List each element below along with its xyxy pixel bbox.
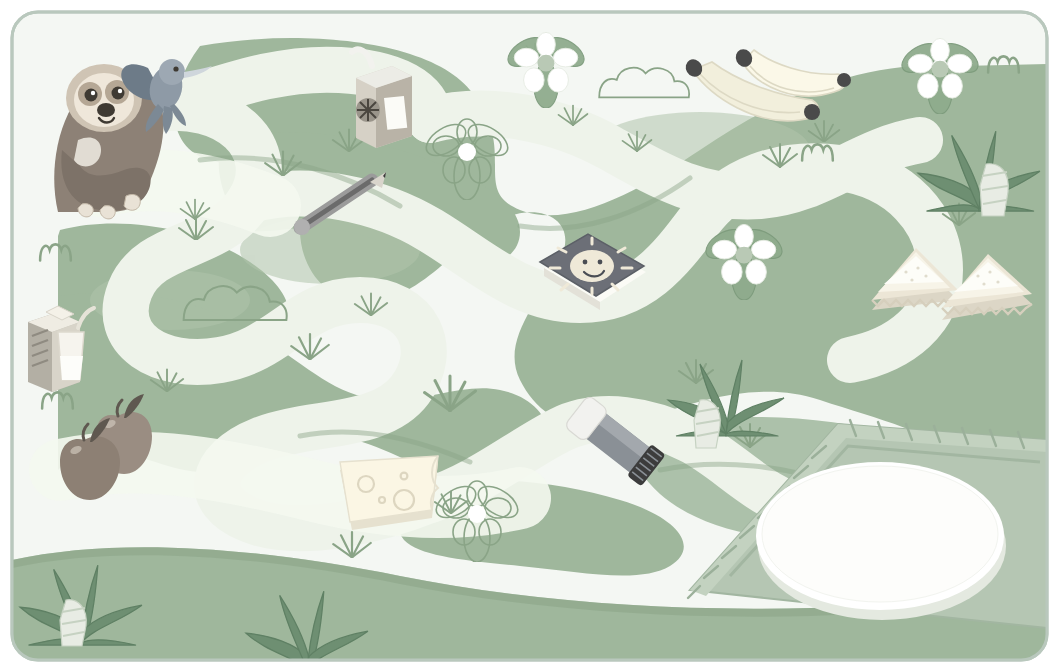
striped-stone <box>980 164 1008 216</box>
cheese-item <box>340 456 438 530</box>
maze-worksheet: Sloth Hummingbird Juice box with straw P… <box>0 0 1059 672</box>
maze-illustration <box>0 0 1059 672</box>
striped-stone <box>694 400 720 448</box>
striped-stone <box>60 600 86 646</box>
